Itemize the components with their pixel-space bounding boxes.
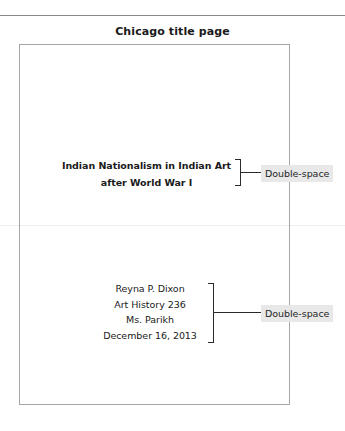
document-page-sheet (19, 44, 290, 405)
document-info-date: December 16, 2013 (95, 328, 205, 344)
bracket-icon (208, 283, 214, 343)
document-info-instructor: Ms. Parikh (95, 312, 205, 328)
page-title: Chicago title page (0, 25, 345, 38)
document-info-author: Reyna P. Dixon (95, 281, 205, 297)
annotation-label-title: Double-space (261, 165, 333, 182)
connector-line (214, 312, 263, 313)
document-title-line-2: after World War I (60, 174, 233, 191)
annotation-label-info: Double-space (261, 305, 333, 322)
document-info-course: Art History 236 (95, 297, 205, 313)
connector-line (241, 172, 263, 173)
document-title-block: Indian Nationalism in Indian Art after W… (60, 157, 233, 191)
document-info-block: Reyna P. Dixon Art History 236 Ms. Parik… (95, 281, 205, 343)
document-title-line-1: Indian Nationalism in Indian Art (60, 157, 233, 174)
top-divider-rule (0, 15, 345, 16)
